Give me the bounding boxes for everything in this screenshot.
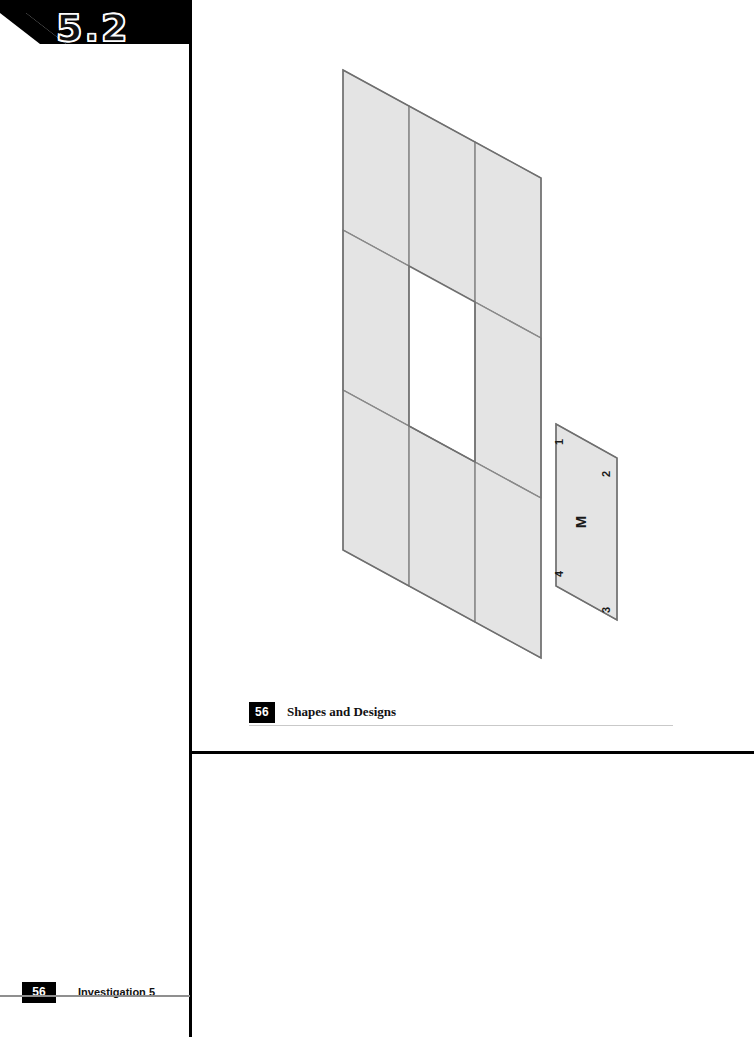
section-number-label: 5.2 [56, 6, 129, 50]
sample-tile-corner-2: 2 [600, 471, 612, 477]
chapter-page-number: 56 [249, 702, 275, 723]
section-banner: 5.2 [0, 0, 192, 58]
grid-cells [343, 70, 541, 658]
sample-tile-corner-3: 3 [600, 607, 612, 613]
investigation-page-number: 56 [22, 982, 56, 1003]
chapter-title: Shapes and Designs [287, 704, 396, 720]
page-vertical-rule [189, 44, 192, 1037]
sample-tile-center-label: M [572, 516, 589, 529]
page-canvas: 5.2 [0, 0, 754, 1037]
sample-tile-corner-1: 1 [553, 439, 565, 445]
chapter-foot-rule [249, 725, 673, 726]
tiling-figure: 1 2 3 4 M [320, 50, 650, 650]
page-horizontal-rule [190, 751, 754, 754]
investigation-foot-rule [0, 995, 190, 997]
investigation-running-foot: 56 Investigation 5 [22, 981, 155, 1003]
chapter-running-foot: 56 Shapes and Designs [249, 701, 396, 723]
sample-tile-corner-4: 4 [553, 570, 565, 577]
sample-tile: 1 2 3 4 M [553, 424, 617, 620]
tiling-figure-svg: 1 2 3 4 M [320, 50, 650, 660]
